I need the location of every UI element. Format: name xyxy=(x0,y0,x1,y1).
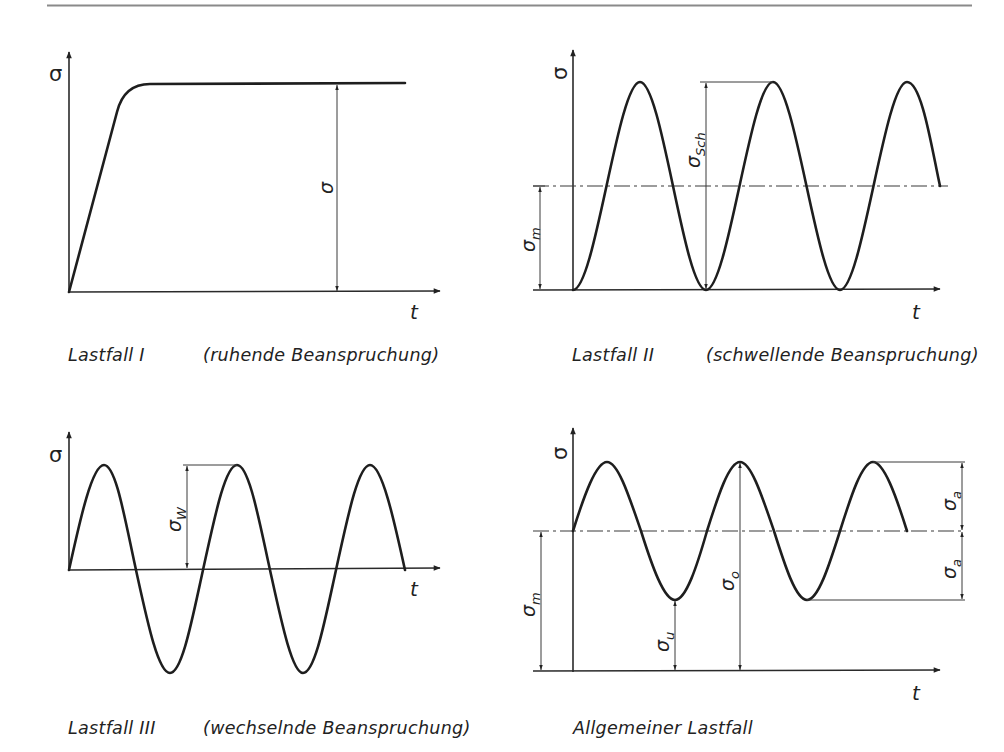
dimension-label-sigma-m: σm xyxy=(517,227,543,252)
dimension-label-sigma-a-upper: σa xyxy=(938,491,964,511)
dimension-label-sigma: σ xyxy=(315,181,337,194)
caption-case: Allgemeiner Lastfall xyxy=(572,718,753,738)
panel-allgemeiner-lastfall: σ t σm σu σo σa σa Allgemeiner Lastfall xyxy=(517,428,965,738)
caption-case: Lastfall I xyxy=(68,345,145,365)
x-axis-label: t xyxy=(410,577,419,601)
x-axis-label: t xyxy=(912,300,921,324)
caption-case: Lastfall III xyxy=(68,718,156,738)
x-axis xyxy=(533,670,940,671)
dimension-label-sigma-a-lower: σa xyxy=(938,559,964,579)
dimension-label-sigma-u: σu xyxy=(651,632,677,652)
panel-lastfall-1: σ t σ Lastfall I (ruhende Beanspruchung) xyxy=(49,52,440,365)
x-axis xyxy=(69,568,440,570)
caption-description: (ruhende Beanspruchung) xyxy=(203,345,439,365)
y-axis-label: σ xyxy=(49,443,62,467)
y-axis-label: σ xyxy=(49,62,62,86)
x-axis-label: t xyxy=(410,300,419,324)
dimension-label-sigma-w: σW xyxy=(163,506,189,532)
dimension-label-sigma-sch: σSch xyxy=(682,132,708,168)
x-axis xyxy=(533,289,940,290)
dimension-label-sigma-m: σm xyxy=(517,592,543,617)
x-axis xyxy=(69,291,440,292)
panel-lastfall-3: σ t σW Lastfall III (wechselnde Beanspru… xyxy=(49,432,471,738)
dimension-label-sigma-o: σo xyxy=(716,571,742,591)
caption-description: (wechselnde Beanspruchung) xyxy=(203,718,471,738)
load-case-diagrams: σ t σ Lastfall I (ruhende Beanspruchung)… xyxy=(0,0,1004,752)
panel-lastfall-2: σ t σSch σm Lastfall II (schwellende Bea… xyxy=(517,50,979,365)
stress-curve xyxy=(69,83,405,292)
caption-case: Lastfall II xyxy=(572,345,654,365)
x-axis-label: t xyxy=(912,681,921,705)
caption-description: (schwellende Beanspruchung) xyxy=(706,345,979,365)
y-axis-label: σ xyxy=(548,447,572,460)
y-axis-label: σ xyxy=(548,67,572,80)
